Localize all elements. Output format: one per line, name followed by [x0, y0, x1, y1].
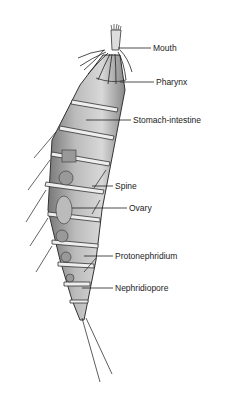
label-ovary: Ovary [129, 203, 152, 213]
label-mouth: Mouth [153, 43, 177, 53]
organism-illustration [0, 0, 245, 398]
label-nephridiopore: Nephridiopore [115, 283, 168, 293]
tail-spines [82, 318, 112, 382]
label-stomach-intestine: Stomach-intestine [133, 115, 201, 125]
label-protonephridium: Protonephridium [115, 251, 177, 261]
mouth-stylets [111, 24, 121, 30]
label-pharynx: Pharynx [156, 77, 187, 87]
label-spine: Spine [115, 181, 137, 191]
mouth-cone [111, 30, 121, 50]
